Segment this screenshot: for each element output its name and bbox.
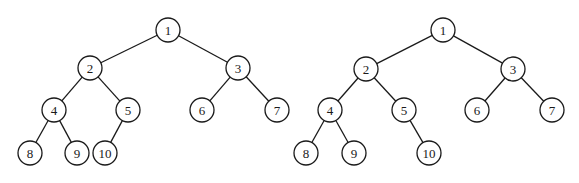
edge-3-7 — [246, 77, 269, 101]
node-label: 8 — [27, 146, 34, 161]
tree-node-9: 9 — [342, 141, 366, 165]
tree-node-1: 1 — [156, 18, 180, 42]
node-label: 9 — [351, 146, 358, 161]
node-label: 9 — [74, 146, 81, 161]
tree-node-5: 5 — [116, 98, 140, 122]
trees-canvas: 1234567891012345678910 — [0, 0, 579, 183]
tree-node-6: 6 — [190, 98, 214, 122]
tree-node-6: 6 — [465, 98, 489, 122]
node-label: 3 — [510, 62, 517, 77]
node-label: 7 — [274, 103, 281, 118]
node-label: 6 — [199, 103, 206, 118]
tree-node-3: 3 — [226, 56, 250, 80]
node-label: 5 — [401, 103, 408, 118]
edge-4-8 — [36, 120, 48, 142]
node-label: 3 — [235, 61, 242, 76]
tree-node-10: 10 — [93, 141, 117, 165]
tree-node-4: 4 — [42, 98, 66, 122]
tree-node-10: 10 — [417, 141, 441, 165]
edge-3-6 — [485, 78, 505, 101]
tree-node-4: 4 — [318, 98, 342, 122]
tree-node-8: 8 — [18, 141, 42, 165]
node-label: 10 — [99, 146, 112, 161]
tree-left: 12345678910 — [18, 18, 289, 165]
node-label: 1 — [165, 23, 172, 38]
node-label: 6 — [474, 103, 481, 118]
edge-4-9 — [60, 121, 72, 143]
edge-3-7 — [521, 78, 543, 102]
edge-2-5 — [374, 78, 396, 101]
node-label: 4 — [51, 103, 58, 118]
tree-node-2: 2 — [78, 56, 102, 80]
tree-node-9: 9 — [65, 141, 89, 165]
edge-1-3 — [179, 36, 228, 63]
edge-1-2 — [101, 35, 157, 62]
tree-node-7: 7 — [265, 98, 289, 122]
node-label: 8 — [303, 146, 310, 161]
tree-node-1: 1 — [431, 18, 455, 42]
tree-node-7: 7 — [540, 98, 564, 122]
edge-2-4 — [338, 78, 358, 101]
tree-node-2: 2 — [354, 57, 378, 81]
node-label: 2 — [87, 61, 94, 76]
node-label: 10 — [423, 146, 436, 161]
tree-right: 12345678910 — [294, 18, 564, 165]
tree-node-3: 3 — [501, 57, 525, 81]
edge-2-4 — [62, 77, 82, 101]
node-label: 1 — [440, 23, 447, 38]
edge-1-2 — [377, 35, 433, 63]
node-label: 7 — [549, 103, 556, 118]
edge-5-10 — [111, 121, 123, 143]
tree-node-5: 5 — [392, 98, 416, 122]
binary-tree-diagram: 1234567891012345678910 — [0, 0, 579, 183]
edge-1-3 — [453, 36, 502, 63]
node-label: 2 — [363, 62, 370, 77]
edge-2-5 — [98, 77, 120, 101]
node-label: 4 — [327, 103, 334, 118]
edge-3-6 — [210, 77, 230, 101]
edge-5-10 — [410, 120, 423, 142]
edge-4-9 — [336, 120, 348, 142]
tree-node-8: 8 — [294, 141, 318, 165]
node-label: 5 — [125, 103, 132, 118]
edge-4-8 — [312, 120, 324, 142]
